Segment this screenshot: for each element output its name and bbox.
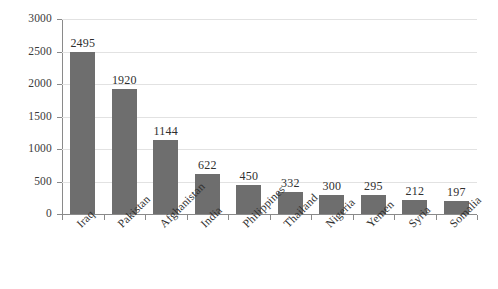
x-axis-tick: [436, 215, 437, 220]
y-axis-tick-label: 3000: [8, 13, 52, 25]
bar-value-label: 2495: [53, 37, 113, 49]
gridline: [62, 52, 477, 53]
y-axis-tick-label: 500: [8, 176, 52, 188]
bar-chart: 050010001500200025003000 249519201144622…: [0, 0, 498, 289]
y-axis-tick-label: 2000: [8, 78, 52, 90]
x-axis-tick: [145, 215, 146, 220]
bar: [112, 89, 137, 214]
x-axis-tick: [394, 215, 395, 220]
x-axis-tick: [311, 215, 312, 220]
bar-value-label: 1144: [136, 125, 196, 137]
x-axis-tick: [477, 215, 478, 220]
y-axis-tick-label: 2500: [8, 46, 52, 58]
bar: [70, 52, 95, 214]
x-axis-tick: [353, 215, 354, 220]
x-axis-tick: [62, 215, 63, 220]
x-axis-tick: [187, 215, 188, 220]
x-axis-tick: [228, 215, 229, 220]
y-axis-tick-label: 0: [8, 208, 52, 220]
gridline: [62, 19, 477, 20]
y-axis-labels: 050010001500200025003000: [0, 0, 52, 289]
bar-value-label: 622: [177, 159, 237, 171]
x-axis-tick: [270, 215, 271, 220]
y-axis-tick-label: 1500: [8, 111, 52, 123]
bar-value-label: 1920: [94, 74, 154, 86]
y-axis-tick-label: 1000: [8, 143, 52, 155]
x-axis-tick: [104, 215, 105, 220]
